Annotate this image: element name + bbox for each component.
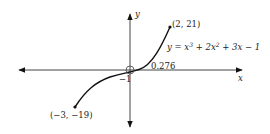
x-axis-label: x — [238, 73, 243, 83]
y-axis-label: y — [134, 9, 140, 19]
start-point-marker — [73, 105, 76, 108]
end-point-label: (2, 21) — [172, 19, 200, 29]
root-label: 0.276 — [151, 61, 175, 71]
start-point-label: (−3, −19) — [50, 110, 93, 120]
y-intercept-label: −1 — [119, 74, 132, 84]
cubic-function-graph: y x (2, 21) (−3, −19) 0.276 −1 y = x3 + … — [0, 0, 270, 134]
equation-label: y = x3 + 2x2 + 3x − 1 — [166, 41, 260, 52]
